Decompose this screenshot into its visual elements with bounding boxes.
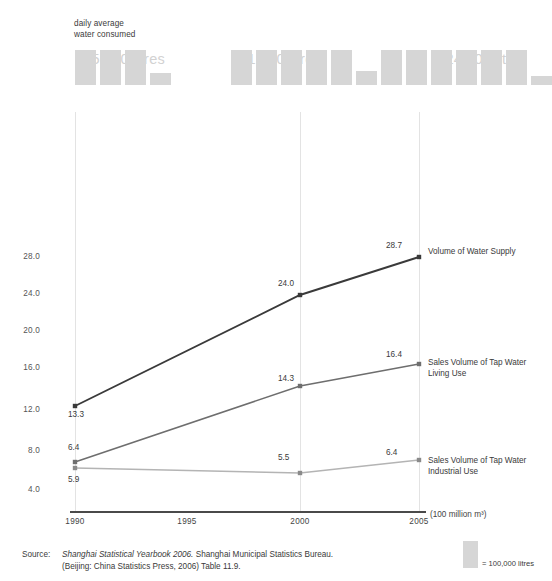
series-label-water-supply: Volume of Water Supply	[428, 246, 516, 257]
source-label: Source:	[22, 549, 50, 561]
point-label-industrial-2000: 5.5	[278, 453, 289, 462]
series-marker-0-0	[73, 404, 77, 408]
series-line-2	[75, 460, 419, 473]
series-label-living-use-line2: Living Use	[428, 368, 526, 379]
series-marker-1-1	[298, 384, 302, 388]
series-label-living-use: Sales Volume of Tap Water Living Use	[428, 357, 526, 379]
series-marker-2-0	[73, 466, 77, 470]
series-marker-2-1	[298, 471, 302, 475]
legend-swatch-label: = 100,000 litres	[482, 559, 534, 568]
series-label-industrial-use-line1: Sales Volume of Tap Water	[428, 455, 526, 466]
series-label-living-use-line1: Sales Volume of Tap Water	[428, 357, 526, 368]
series-line-0	[75, 257, 419, 406]
series-marker-0-2	[417, 255, 421, 259]
point-label-supply-2000: 24.0	[278, 279, 294, 288]
series-label-industrial-use-line2: Industrial Use	[428, 466, 526, 477]
series-label-water-supply-line1: Volume of Water Supply	[428, 246, 516, 257]
point-label-industrial-1990: 5.9	[68, 475, 79, 484]
series-line-1	[75, 364, 419, 462]
source-title-italic: Shanghai Statistical Yearbook 2006.	[62, 550, 193, 559]
series-marker-2-2	[417, 458, 421, 462]
point-label-living-2005: 16.4	[386, 350, 402, 359]
point-label-supply-2005: 28.7	[386, 241, 402, 250]
source-text: Shanghai Statistical Yearbook 2006. Shan…	[62, 549, 392, 573]
series-marker-1-2	[417, 362, 421, 366]
series-marker-0-1	[298, 293, 302, 297]
point-label-supply-1990: 13.3	[68, 410, 84, 419]
point-label-industrial-2005: 6.4	[386, 448, 397, 457]
series-marker-1-0	[73, 460, 77, 464]
point-label-living-2000: 14.3	[278, 374, 294, 383]
legend-swatch-icon	[463, 541, 478, 568]
source-rest: Shanghai Municipal Statistics Bureau.	[193, 550, 333, 559]
source-line2: (Beijing: China Statistics Press, 2006) …	[62, 562, 241, 571]
point-label-living-1990: 6.4	[68, 443, 79, 452]
series-label-industrial-use: Sales Volume of Tap Water Industrial Use	[428, 455, 526, 477]
